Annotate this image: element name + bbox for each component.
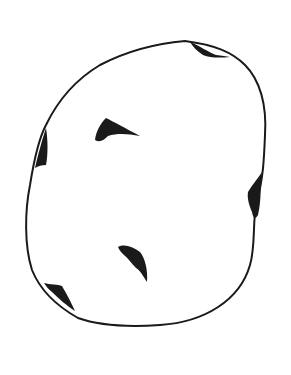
potato-drawing [0,0,291,375]
potato-outline [26,41,265,326]
